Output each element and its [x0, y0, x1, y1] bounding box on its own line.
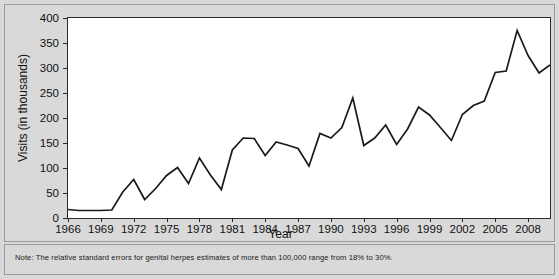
figure: Visits (in thousands) 050100150200250300…: [0, 0, 559, 279]
note-text: Note: The relative standard errors for g…: [15, 253, 393, 262]
x-axis-label: Year: [5, 227, 556, 241]
note-panel: Note: The relative standard errors for g…: [4, 244, 555, 275]
x-axis-tick-labels: 1966196919721975197819811984198719901993…: [5, 5, 556, 243]
chart-panel: Visits (in thousands) 050100150200250300…: [4, 4, 555, 242]
